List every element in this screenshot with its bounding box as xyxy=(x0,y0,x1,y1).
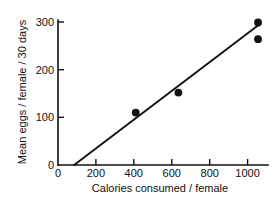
data-point xyxy=(132,109,140,117)
regression-line xyxy=(74,24,260,165)
x-tick-label-400: 400 xyxy=(125,167,143,179)
data-point xyxy=(254,35,262,43)
y-tick-label-300: 300 xyxy=(36,16,54,28)
x-tick-label-600: 600 xyxy=(163,167,181,179)
y-axis-title: Mean eggs / female / 30 days xyxy=(16,19,28,164)
y-axis-tick-labels: 300 200 100 0 xyxy=(36,16,54,171)
data-point xyxy=(254,19,262,27)
x-axis-tick-labels: 0 200 400 600 800 1000 xyxy=(55,167,260,179)
plot-canvas: 300 200 100 0 Mean eggs / female / 30 da… xyxy=(0,0,276,200)
y-axis-ticks xyxy=(58,22,64,117)
data-point xyxy=(174,89,182,97)
x-axis-ticks xyxy=(96,159,248,165)
y-tick-label-200: 200 xyxy=(36,64,54,76)
x-axis-group: 0 200 400 600 800 1000 Calories consumed… xyxy=(55,159,268,194)
data-points-group xyxy=(132,19,262,117)
data-series-layer xyxy=(74,19,262,165)
scatter-plot-figure: 300 200 100 0 Mean eggs / female / 30 da… xyxy=(0,0,276,200)
x-tick-label-0: 0 xyxy=(55,167,61,179)
y-tick-label-100: 100 xyxy=(36,111,54,123)
x-axis-title: Calories consumed / female xyxy=(92,182,228,194)
y-axis-group: 300 200 100 0 Mean eggs / female / 30 da… xyxy=(16,16,64,171)
x-tick-label-1000: 1000 xyxy=(235,167,259,179)
y-tick-label-0: 0 xyxy=(48,159,54,171)
x-tick-label-800: 800 xyxy=(201,167,219,179)
x-tick-label-200: 200 xyxy=(87,167,105,179)
